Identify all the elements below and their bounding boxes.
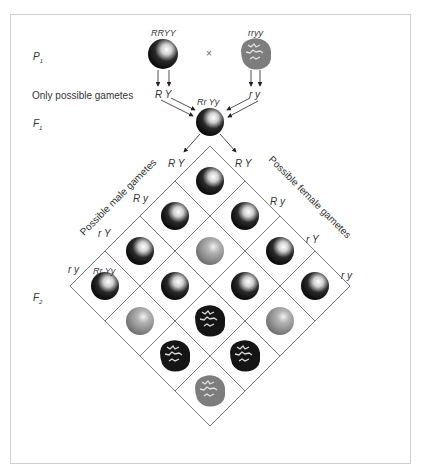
seed-round-yellow [161,272,189,300]
seed-round-yellow [91,272,119,300]
seed-round-yellow [231,272,259,300]
generation-f1-label: F1 [33,118,42,131]
male-gamete-Ry: R y [133,193,148,204]
seed-round-yellow [231,202,259,230]
male-gamete-RY: R Y [168,158,185,169]
seed-round-yellow [301,272,329,300]
cross-symbol: × [206,48,212,59]
parent-right-genotype: rryy [248,28,263,38]
seed-round-yellow [266,237,294,265]
seed-round-green [266,307,294,335]
parent-right-gametes: r y [249,89,260,100]
female-gamete-Ry: R y [270,196,285,207]
punnett-diagram: Possible male gametes Possible female ga… [0,0,423,473]
seed-wrinkled-yellow [195,305,225,336]
gametes-label: Only possible gametes [32,90,133,101]
f1-genotype: Rr Yy [197,97,219,107]
generation-f2-label: F2 [33,292,42,305]
female-gamete-rY: r Y [306,234,319,245]
f1-seed-round-yellow [196,108,224,136]
seed-round-yellow [196,167,224,195]
seed-round-yellow [161,202,189,230]
male-gamete-rY: r Y [98,228,111,239]
seed-round-green [196,237,224,265]
female-gamete-RY: R Y [235,158,252,169]
seed-wrinkled-yellow [230,340,260,371]
female-gamete-ry: r y [341,270,352,281]
parent-seed-round-yellow [148,39,178,69]
seed-wrinkled-yellow [160,340,190,371]
parent-left-genotype: RRYY [151,28,176,38]
example-cell-genotype: Rr Yy [93,266,115,276]
parent-seed-wrinkled-green [241,38,271,69]
male-gamete-ry: r y [68,264,79,275]
seed-wrinkled-green [195,375,225,406]
parent-left-gametes: R Y [155,89,172,100]
generation-p1-label: P1 [33,51,43,64]
seed-round-yellow [126,237,154,265]
seed-round-green [126,307,154,335]
